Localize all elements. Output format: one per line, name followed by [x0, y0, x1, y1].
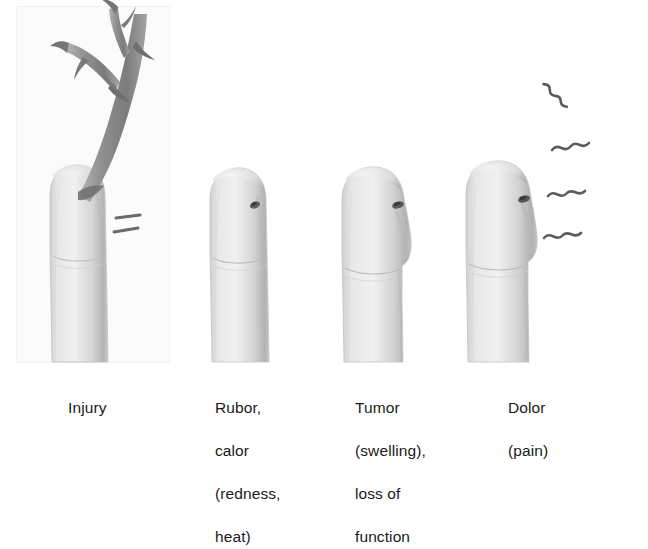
caption-rubor-calor: Rubor, calor (redness, heat): [215, 375, 281, 549]
caption-line: Dolor: [508, 397, 548, 419]
tumor-illustration: [322, 0, 447, 370]
pain-squiggles: [544, 79, 589, 238]
caption-line: (redness,: [215, 483, 281, 505]
caption-line: Injury: [68, 397, 107, 419]
caption-line: loss of: [355, 483, 426, 505]
caption-line: (pain): [508, 440, 548, 462]
panel-injury: [16, 0, 170, 370]
finger-dolor: [466, 161, 537, 362]
caption-line: calor: [215, 440, 281, 462]
caption-line: heat): [215, 526, 281, 548]
caption-line: (swelling),: [355, 440, 426, 462]
caption-injury: Injury: [68, 375, 107, 440]
caption-tumor: Tumor (swelling), loss of function: [355, 375, 426, 549]
caption-dolor: Dolor (pain): [508, 375, 548, 483]
panel-tumor: [322, 0, 447, 370]
injury-marks: [114, 215, 140, 232]
rubor-calor-illustration: [190, 0, 310, 370]
finger-tumor: [342, 167, 411, 362]
injury-illustration: [16, 0, 170, 370]
caption-line: Rubor,: [215, 397, 281, 419]
caption-line: function: [355, 526, 426, 548]
caption-line: Tumor: [355, 397, 426, 419]
finger-rubor: [210, 168, 269, 362]
dolor-illustration: [452, 0, 602, 370]
panel-dolor: [452, 0, 602, 370]
panel-rubor-calor: [190, 0, 310, 370]
